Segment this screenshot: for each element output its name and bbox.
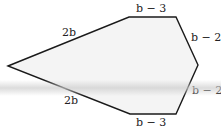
hexagon-shape xyxy=(8,17,198,114)
side-label-lower-right: b − 2 xyxy=(192,84,221,97)
side-label-bottom: b − 3 xyxy=(136,116,166,127)
side-label-top: b − 3 xyxy=(136,2,166,15)
hexagon-diagram: 2b b − 3 b − 2 b − 2 b − 3 2b xyxy=(0,0,221,127)
side-label-lower-left: 2b xyxy=(64,94,78,107)
side-label-upper-right: b − 2 xyxy=(191,31,221,44)
side-label-upper-left: 2b xyxy=(62,26,76,39)
